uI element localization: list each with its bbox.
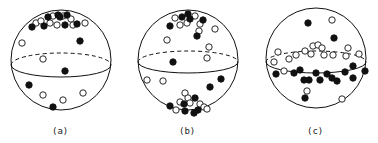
open-dot xyxy=(343,53,349,59)
open-dot xyxy=(281,68,287,74)
open-dot xyxy=(356,51,362,57)
panel-label-c: (c) xyxy=(307,126,323,136)
open-dot xyxy=(339,96,345,102)
filled-dot xyxy=(313,70,319,76)
open-dot xyxy=(172,15,178,21)
filled-dot xyxy=(62,22,68,28)
filled-dot xyxy=(302,95,308,101)
filled-dot xyxy=(77,38,83,44)
filled-dot xyxy=(74,21,80,27)
open-dot xyxy=(302,48,308,54)
filled-dot xyxy=(273,71,279,77)
filled-dot xyxy=(62,68,68,74)
filled-dot xyxy=(297,67,303,73)
panel-label-b: (b) xyxy=(179,126,195,136)
open-dot xyxy=(80,90,86,96)
filled-dot xyxy=(64,12,70,18)
open-dot xyxy=(275,49,281,55)
filled-dot xyxy=(192,95,198,101)
filled-dot xyxy=(182,108,188,114)
open-dot xyxy=(204,55,210,61)
sphere-panel-a xyxy=(11,10,111,110)
sphere-outline xyxy=(11,10,111,110)
sphere-outline xyxy=(266,8,366,108)
filled-dot xyxy=(167,103,173,109)
filled-dot xyxy=(207,84,213,90)
filled-dot xyxy=(317,77,323,83)
open-dot xyxy=(60,97,66,103)
filled-dot xyxy=(167,23,173,29)
open-dot xyxy=(319,45,325,51)
open-dot xyxy=(293,52,299,58)
open-dot xyxy=(345,45,351,51)
filled-dot xyxy=(194,33,200,39)
filled-dot xyxy=(342,69,348,75)
open-dot xyxy=(329,17,335,23)
sphere-panel-b xyxy=(138,10,238,116)
open-dot xyxy=(160,78,166,84)
filled-dot xyxy=(50,104,56,110)
open-dot xyxy=(206,44,212,50)
equator-back-dashed xyxy=(11,53,111,65)
filled-dot xyxy=(350,63,356,69)
open-dot xyxy=(82,20,88,26)
open-dot xyxy=(187,100,193,106)
filled-dot xyxy=(362,68,368,74)
filled-dot xyxy=(191,110,197,116)
filled-dot xyxy=(350,75,356,81)
open-dot xyxy=(19,40,25,46)
open-dot xyxy=(204,106,210,112)
filled-dot xyxy=(45,14,51,20)
open-dot xyxy=(47,20,53,26)
open-dot xyxy=(286,56,292,62)
sphere-panel-c xyxy=(266,8,368,108)
open-dot xyxy=(144,77,150,83)
open-dot xyxy=(40,92,46,98)
open-dot xyxy=(40,56,46,62)
equator-back-dashed xyxy=(138,51,238,62)
open-dot xyxy=(164,37,170,43)
spheres-figure: (a) (b) (c) xyxy=(0,0,378,143)
panel-label-a: (a) xyxy=(52,126,68,136)
open-dot xyxy=(212,26,218,32)
open-dot xyxy=(321,52,327,58)
open-dot xyxy=(173,107,179,113)
filled-dot xyxy=(291,70,297,76)
open-dot xyxy=(177,22,183,28)
filled-dot xyxy=(29,24,35,30)
open-dot xyxy=(54,22,60,28)
filled-dot xyxy=(170,59,176,65)
equator-front xyxy=(138,62,238,73)
filled-dot xyxy=(331,35,337,41)
filled-dot xyxy=(57,14,63,20)
filled-dot xyxy=(334,78,340,84)
filled-dot xyxy=(26,82,32,88)
filled-dot xyxy=(179,14,185,20)
equator-front xyxy=(11,65,111,77)
filled-dot xyxy=(41,23,47,29)
filled-dot xyxy=(305,20,311,26)
filled-dot xyxy=(218,76,224,82)
open-dot xyxy=(271,59,277,65)
filled-dot xyxy=(200,17,206,23)
open-dot xyxy=(304,88,310,94)
filled-dot xyxy=(181,101,187,107)
open-dot xyxy=(330,52,336,58)
filled-dot xyxy=(187,16,193,22)
filled-dot xyxy=(301,77,307,83)
open-dot xyxy=(308,51,314,57)
